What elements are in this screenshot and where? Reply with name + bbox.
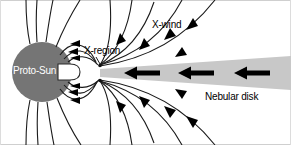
proto-sun-label: Proto-Sun: [13, 66, 56, 76]
arrowhead-xwind-upper-4: [186, 18, 198, 30]
nebular-disk-label: Nebular disk: [205, 92, 258, 102]
arrowhead-xwind-lower-5: [175, 89, 187, 99]
arrowhead-xwind-upper-1: [116, 33, 126, 45]
x-region-label: X-region: [84, 46, 120, 56]
x-point-upper-node: [98, 64, 102, 68]
arrowhead-xwind-lower-1: [116, 101, 126, 113]
arrowhead-xwind-lower-2: [139, 96, 150, 108]
arrowhead-xwind-upper-5: [175, 47, 187, 57]
x-wind-label: X-wind: [152, 20, 181, 30]
equatorial-notch: [58, 64, 80, 80]
arrowhead-xwind-lower-4: [186, 116, 198, 128]
x-wind-field-lines-lower: [100, 80, 215, 145]
arrowhead-xwind-upper-2: [139, 38, 150, 50]
open-polar-field-lines-upper: [26, 0, 80, 47]
arrowhead-loop-lower-3: [70, 83, 80, 89]
x-wind-field-lines-upper: [100, 0, 215, 66]
arrowhead-loop-upper-3: [70, 55, 80, 61]
open-polar-field-lines-lower: [26, 98, 81, 145]
x-point-lower-node: [98, 79, 102, 83]
figure-canvas: Proto-Sun X-region X-wind Nebular disk: [0, 0, 291, 145]
